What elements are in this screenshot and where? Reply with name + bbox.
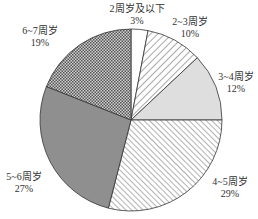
label-under-2: 2周岁及以下 3%	[110, 3, 165, 27]
label-2-3-name: 2~3周岁	[172, 16, 207, 28]
label-5-6: 5~6周岁 27%	[6, 171, 41, 195]
label-3-4-name: 3~4周岁	[218, 71, 253, 83]
label-6-7-pct: 19%	[22, 37, 57, 49]
label-under-2-name: 2周岁及以下	[110, 3, 165, 15]
label-5-6-name: 5~6周岁	[6, 171, 41, 183]
pie-slices	[40, 29, 222, 211]
label-6-7-name: 6~7周岁	[22, 25, 57, 37]
label-3-4: 3~4周岁 12%	[218, 71, 253, 95]
label-6-7: 6~7周岁 19%	[22, 25, 57, 49]
label-4-5: 4~5周岁 29%	[212, 176, 247, 200]
label-5-6-pct: 27%	[6, 183, 41, 195]
label-3-4-pct: 12%	[218, 83, 253, 95]
label-2-3: 2~3周岁 10%	[172, 16, 207, 40]
label-2-3-pct: 10%	[172, 28, 207, 40]
label-4-5-name: 4~5周岁	[212, 176, 247, 188]
label-under-2-pct: 3%	[110, 15, 165, 27]
label-4-5-pct: 29%	[212, 188, 247, 200]
